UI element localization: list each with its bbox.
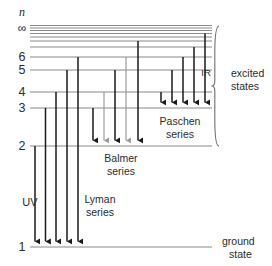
uv-label: UV bbox=[22, 196, 38, 208]
excited-states-label-line1: excited bbox=[231, 67, 264, 79]
balmer-series-label-line2: series bbox=[107, 165, 135, 177]
energy-level-diagram: n ∞ 123456 UV IR Lyman series Balmer ser… bbox=[0, 0, 272, 266]
level-label-6: 6 bbox=[19, 50, 26, 64]
balmer-series-label-line1: Balmer bbox=[104, 152, 138, 164]
level-label-2: 2 bbox=[19, 139, 26, 153]
ground-state-label-line1: ground bbox=[222, 235, 255, 247]
level-label-5: 5 bbox=[19, 63, 26, 77]
excited-states-brace bbox=[212, 26, 220, 146]
level-label-4: 4 bbox=[19, 85, 26, 99]
level-number-labels: 123456 bbox=[19, 50, 26, 254]
paschen-series-label-line1: Paschen bbox=[160, 115, 201, 127]
lyman-series-label-line1: Lyman bbox=[84, 193, 115, 205]
level-label-1: 1 bbox=[19, 240, 26, 254]
ir-label: IR bbox=[201, 67, 211, 78]
lyman-series-label-line2: series bbox=[86, 206, 114, 218]
diagram-canvas: n ∞ 123456 UV IR Lyman series Balmer ser… bbox=[0, 0, 272, 266]
excited-states-label-line2: states bbox=[231, 80, 259, 92]
paschen-series-label-line2: series bbox=[166, 128, 194, 140]
level-label-3: 3 bbox=[19, 101, 26, 115]
ground-state-label-line2: state bbox=[229, 248, 252, 260]
axis-label-infinity: ∞ bbox=[18, 21, 27, 35]
axis-symbol-n: n bbox=[19, 5, 25, 19]
